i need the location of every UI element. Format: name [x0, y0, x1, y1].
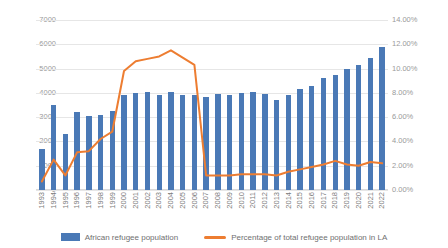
x-axis-tick: 2015	[294, 192, 306, 226]
y2-axis-tick-label: 6.00%	[392, 113, 442, 121]
legend-line-label: Percentage of total refugee population i…	[231, 233, 387, 242]
x-axis-tick-label: 2015	[296, 192, 304, 209]
y2-axis-tick-label: 0.00%	[392, 186, 442, 194]
y2-axis-tick-label: 12.00%	[392, 41, 442, 49]
x-axis-tick-label: 1993	[38, 192, 46, 209]
x-axis-tick-label: 2020	[355, 192, 363, 209]
x-axis-tick: 1993	[36, 192, 48, 226]
x-axis-tick-label: 1997	[85, 192, 93, 209]
x-axis-tick: 2021	[365, 192, 377, 226]
x-axis-tick: 2001	[130, 192, 142, 226]
x-axis-tick-label: 2004	[167, 192, 175, 209]
x-axis-tick: 2005	[177, 192, 189, 226]
x-axis-tick: 2007	[200, 192, 212, 226]
x-axis-tick: 2016	[306, 192, 318, 226]
x-axis-tick-label: 1995	[62, 192, 70, 209]
x-axis-tick: 1994	[48, 192, 60, 226]
y2-axis-tick-label: 14.00%	[392, 16, 442, 24]
x-axis-tick-label: 2014	[285, 192, 293, 209]
x-axis-tick: 2011	[247, 192, 259, 226]
x-axis-tick-label: 2001	[132, 192, 140, 209]
plot-area	[36, 20, 388, 190]
x-axis-tick: 2020	[353, 192, 365, 226]
legend-bar-swatch-icon	[61, 233, 80, 241]
x-axis-tick: 2003	[153, 192, 165, 226]
legend-item-bar: African refugee population	[61, 233, 178, 242]
x-axis-tick: 2014	[282, 192, 294, 226]
x-axis-tick-label: 2013	[273, 192, 281, 209]
x-axis-tick-label: 2022	[378, 192, 386, 209]
x-axis-tick-label: 2019	[343, 192, 351, 209]
x-axis-tick-label: 2000	[120, 192, 128, 209]
x-axis-tick-label: 2010	[238, 192, 246, 209]
legend-bar-label: African refugee population	[85, 233, 178, 242]
x-axis-tick-label: 2006	[191, 192, 199, 209]
y2-axis-tick-label: 8.00%	[392, 89, 442, 97]
x-axis-tick-label: 2009	[226, 192, 234, 209]
x-axis-tick: 1996	[71, 192, 83, 226]
x-axis-tick: 1997	[83, 192, 95, 226]
line-path	[42, 50, 382, 181]
chart-legend: African refugee population Percentage of…	[0, 229, 448, 245]
x-axis-tick: 1995	[59, 192, 71, 226]
x-axis-tick: 2018	[329, 192, 341, 226]
x-axis-tick-label: 2017	[320, 192, 328, 209]
line-series	[36, 20, 388, 190]
x-axis-tick: 2000	[118, 192, 130, 226]
x-axis-tick: 2019	[341, 192, 353, 226]
x-axis-tick-label: 2003	[155, 192, 163, 209]
y2-axis-tick-label: 2.00%	[392, 162, 442, 170]
x-axis-tick-label: 2002	[144, 192, 152, 209]
x-axis-tick: 2017	[318, 192, 330, 226]
legend-line-swatch-icon	[204, 236, 226, 239]
x-axis-tick-label: 1998	[97, 192, 105, 209]
chart-container: 01000200030004000500060007000 0.00%2.00%…	[0, 0, 448, 248]
x-axis-tick: 2022	[376, 192, 388, 226]
x-axis-tick: 2010	[235, 192, 247, 226]
gridline	[36, 190, 388, 191]
x-axis-labels: 1993199419951996199719981999200020012002…	[36, 192, 388, 226]
x-axis-tick: 2008	[212, 192, 224, 226]
x-axis-tick: 2004	[165, 192, 177, 226]
x-axis-tick-label: 1994	[50, 192, 58, 209]
x-axis-tick-label: 2007	[202, 192, 210, 209]
y2-axis-tick-label: 10.00%	[392, 65, 442, 73]
x-axis-tick-label: 2005	[179, 192, 187, 209]
x-axis-tick: 2002	[142, 192, 154, 226]
x-axis-tick-label: 2011	[249, 192, 257, 208]
x-axis-tick-label: 2021	[367, 192, 375, 209]
legend-item-line: Percentage of total refugee population i…	[204, 233, 387, 242]
x-axis-tick: 2013	[271, 192, 283, 226]
x-axis-tick: 1998	[95, 192, 107, 226]
x-axis-tick: 2009	[224, 192, 236, 226]
x-axis-tick-label: 1996	[73, 192, 81, 209]
x-axis-tick: 1999	[106, 192, 118, 226]
x-axis-tick: 2006	[189, 192, 201, 226]
x-axis-tick-label: 2012	[261, 192, 269, 209]
x-axis-tick-label: 1999	[109, 192, 117, 209]
x-axis-tick: 2012	[259, 192, 271, 226]
x-axis-tick-label: 2018	[331, 192, 339, 209]
y2-axis-tick-label: 4.00%	[392, 138, 442, 146]
x-axis-tick-label: 2016	[308, 192, 316, 209]
x-axis-tick-label: 2008	[214, 192, 222, 209]
